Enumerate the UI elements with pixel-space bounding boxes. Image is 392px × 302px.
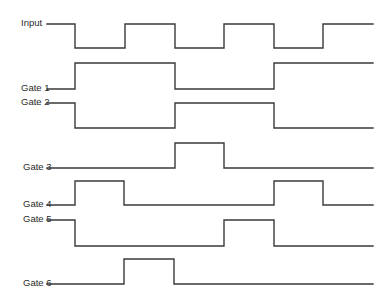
waveform-gate-4	[47, 181, 373, 205]
waveform-gate-1	[47, 63, 373, 89]
waveform-gate-2	[47, 103, 373, 128]
signal-label-gate-4: Gate 4	[23, 199, 52, 209]
signal-label-gate-2: Gate 2	[21, 97, 50, 107]
waveforms	[0, 0, 392, 302]
signal-label-gate-1: Gate 1	[21, 83, 50, 93]
waveform-gate-3	[47, 143, 373, 168]
signal-label-gate-5: Gate 5	[23, 214, 52, 224]
signal-label-gate-3: Gate 3	[23, 162, 52, 172]
waveform-gate-5	[47, 220, 373, 246]
signal-label-input: Input	[21, 18, 42, 28]
timing-diagram: Input Gate 1 Gate 2 Gate 3 Gate 4 Gate 5…	[0, 0, 392, 302]
waveform-gate-6	[47, 259, 373, 284]
signal-label-gate-6: Gate 6	[23, 278, 52, 288]
waveform-input	[47, 24, 373, 48]
